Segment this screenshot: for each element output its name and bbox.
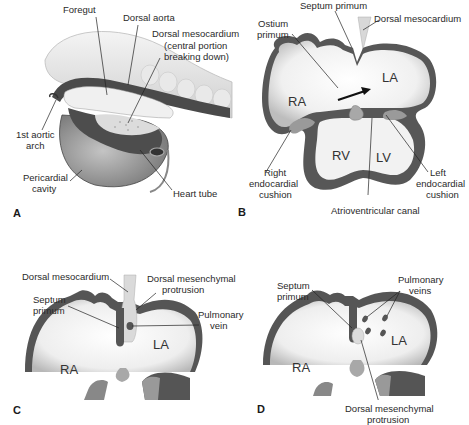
label-left-cushion-1: Left [430, 167, 446, 178]
label-septum-primum-1: Septum [277, 280, 310, 291]
label-dmp-2: protrusion [367, 414, 409, 425]
label-dorsal-mesocardium-note-2: breaking down) [164, 51, 229, 62]
label-atrioventricular-canal: Atrioventricular canal [331, 205, 420, 216]
label-first-aortic-arch-2: arch [26, 140, 44, 151]
panel-label-b: B [238, 206, 246, 218]
chamber-lv: LV [376, 150, 391, 165]
label-dorsal-mesocardium: Dorsal mesocardium [152, 28, 239, 39]
label-first-aortic-arch-1: 1st aortic [16, 129, 55, 140]
label-dmp-1: Dorsal mesenchymal [147, 273, 236, 284]
label-pulmonary-vein-2: vein [210, 320, 227, 331]
label-septum-primum-2: primum [277, 291, 309, 302]
label-pulmonary-veins-2: veins [409, 285, 431, 296]
pulmonary-veins-la-illustration [235, 230, 469, 400]
chamber-ra: RA [292, 360, 310, 375]
label-dmp-2: protrusion [162, 284, 204, 295]
label-right-cushion-3: cushion [259, 189, 292, 200]
label-septum-primum-1: Septum [33, 294, 66, 305]
label-ostium-primum-1: Ostium [258, 18, 288, 29]
label-pericardial-cavity-2: cavity [32, 183, 56, 194]
chamber-rv: RV [332, 148, 350, 163]
label-left-cushion-2: endocardial [416, 178, 465, 189]
label-pulmonary-veins-1: Pulmonary [398, 274, 443, 285]
label-dmp-1: Dorsal mesenchymal [345, 403, 434, 414]
label-right-cushion-1: Right [264, 167, 286, 178]
panel-b: Septum primum Dorsal mesocardium Ostium … [235, 0, 469, 230]
panel-label-a: A [13, 207, 21, 219]
label-left-cushion-3: cushion [426, 189, 459, 200]
panel-a: Foregut Dorsal aorta Dorsal mesocardium … [0, 0, 235, 200]
chamber-ra: RA [60, 362, 78, 377]
label-septum-primum-2: primum [33, 305, 65, 316]
label-dorsal-mesocardium: Dorsal mesocardium [22, 271, 109, 282]
label-right-cushion-2: endocardial [249, 178, 298, 189]
chamber-ra: RA [288, 94, 306, 109]
chamber-la: LA [391, 333, 407, 348]
panel-d: Septum primum Pulmonary veins RA LA Dors… [235, 230, 469, 400]
chamber-la: LA [382, 70, 398, 85]
label-foregut: Foregut [63, 4, 96, 15]
panel-label-c: C [13, 404, 21, 416]
label-septum-primum: Septum primum [300, 0, 367, 11]
label-heart-tube: Heart tube [173, 188, 217, 199]
chamber-la: LA [153, 337, 169, 352]
panel-c: Dorsal mesocardium Dorsal mesenchymal pr… [0, 230, 235, 400]
label-ostium-primum-2: primum [257, 29, 289, 40]
label-dorsal-mesocardium: Dorsal mesocardium [374, 13, 461, 24]
panel-label-d: D [257, 403, 265, 415]
label-pericardial-cavity-1: Pericardial [23, 172, 68, 183]
label-dorsal-mesocardium-note-1: (central portion [164, 40, 227, 51]
label-dorsal-aorta: Dorsal aorta [123, 12, 175, 23]
